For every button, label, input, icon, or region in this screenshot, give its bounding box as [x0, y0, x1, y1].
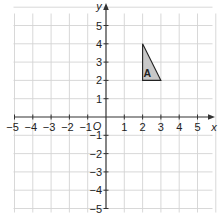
- y-tick-label: −5: [89, 203, 102, 215]
- y-tick-label: −3: [89, 166, 102, 178]
- y-tick-label: 2: [96, 74, 102, 86]
- tick-labels: −5−4−3−2−11234554321−1−2−3−4−5xyO: [6, 0, 217, 215]
- x-tick-label: 3: [158, 121, 164, 133]
- shape-label-A: A: [143, 67, 151, 79]
- origin-label: O: [93, 120, 102, 132]
- y-tick-label: −4: [89, 184, 102, 196]
- y-tick-label: 1: [96, 93, 102, 105]
- x-tick-label: −5: [6, 121, 19, 133]
- x-axis-arrow-icon: [208, 114, 215, 120]
- y-tick-label: 5: [96, 20, 102, 32]
- x-axis-label: x: [210, 121, 217, 133]
- x-tick-label: −3: [43, 121, 56, 133]
- x-tick-label: 2: [140, 121, 146, 133]
- y-axis-arrow-icon: [103, 3, 109, 10]
- x-tick-label: −2: [61, 121, 74, 133]
- x-tick-label: 5: [194, 121, 200, 133]
- y-tick-label: 4: [96, 38, 102, 50]
- x-tick-label: −4: [25, 121, 38, 133]
- x-tick-label: 1: [121, 121, 127, 133]
- y-tick-label: 3: [96, 56, 102, 68]
- x-tick-label: 4: [176, 121, 182, 133]
- y-tick-label: −2: [89, 148, 102, 160]
- y-axis-label: y: [95, 0, 103, 12]
- axes: [15, 3, 216, 209]
- grid-lines: [14, 7, 216, 212]
- coordinate-grid: A −5−4−3−2−11234554321−1−2−3−4−5xyO: [0, 0, 219, 221]
